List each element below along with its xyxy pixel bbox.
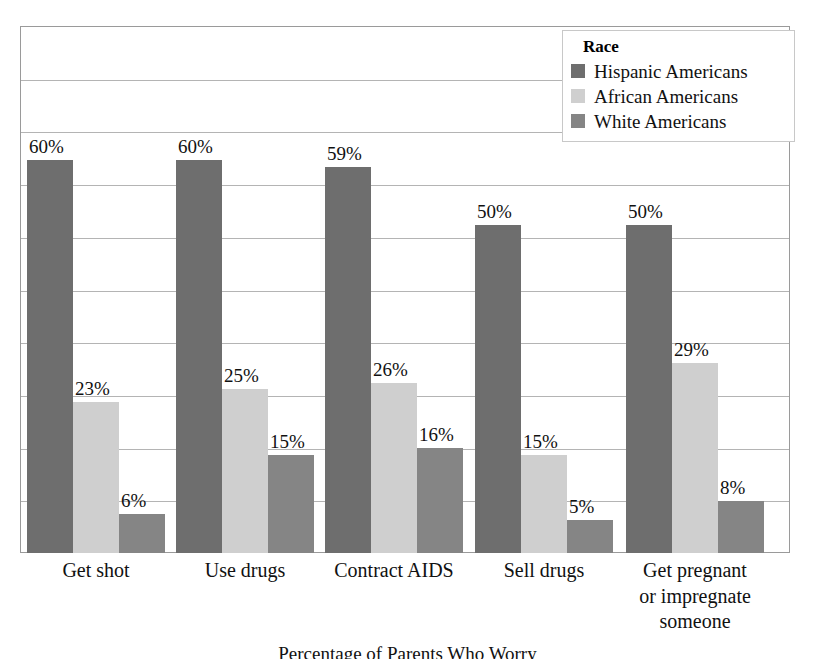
bar-value-label: 50%	[477, 202, 512, 221]
legend-item-label: Hispanic Americans	[594, 62, 748, 81]
legend-item-label: White Americans	[594, 112, 726, 131]
legend-swatch-icon	[571, 114, 585, 128]
chart-caption: Percentage of Parents Who Worry	[0, 643, 815, 659]
legend-items: Hispanic AmericansAfrican AmericansWhite…	[571, 59, 786, 134]
bar-value-label: 6%	[121, 491, 146, 510]
bar-value-label: 8%	[720, 478, 745, 497]
bar-value-label: 23%	[75, 379, 110, 398]
legend-swatch-icon	[571, 89, 585, 103]
category-label-line: someone	[605, 609, 785, 635]
bar[interactable]	[119, 514, 165, 553]
legend-item[interactable]: African Americans	[571, 84, 786, 109]
bar-value-label: 25%	[224, 366, 259, 385]
bar-group: 59%26%16%	[325, 26, 463, 553]
bar-chart: 60%23%6%60%25%15%59%26%16%50%15%5%50%29%…	[0, 0, 815, 659]
bar[interactable]	[268, 455, 314, 553]
bar[interactable]	[176, 160, 222, 553]
bar-value-label: 59%	[327, 144, 362, 163]
bar[interactable]	[718, 501, 764, 553]
bar-value-label: 60%	[178, 137, 213, 156]
bar[interactable]	[73, 402, 119, 553]
bar-value-label: 29%	[674, 340, 709, 359]
bar-value-label: 15%	[523, 432, 558, 451]
category-axis: Get shotUse drugsContract AIDSSell drugs…	[20, 558, 790, 638]
bar-group: 60%25%15%	[176, 26, 314, 553]
bar[interactable]	[521, 455, 567, 553]
category-label: Get pregnantor impregnatesomeone	[605, 558, 785, 635]
legend-item-label: African Americans	[594, 87, 738, 106]
legend-item[interactable]: White Americans	[571, 109, 786, 134]
bar[interactable]	[417, 448, 463, 553]
bar-value-label: 26%	[373, 360, 408, 379]
legend-title: Race	[583, 37, 786, 57]
bar-value-label: 16%	[419, 425, 454, 444]
category-label-line: Get pregnant	[605, 558, 785, 584]
bar[interactable]	[626, 225, 672, 553]
bar-value-label: 50%	[628, 202, 663, 221]
bar-value-label: 5%	[569, 497, 594, 516]
bar[interactable]	[325, 167, 371, 553]
bar[interactable]	[222, 389, 268, 553]
legend: Race Hispanic AmericansAfrican Americans…	[562, 30, 795, 142]
bar-value-label: 60%	[29, 137, 64, 156]
bar[interactable]	[567, 520, 613, 553]
bar[interactable]	[27, 160, 73, 553]
bar-group: 60%23%6%	[27, 26, 165, 553]
bar[interactable]	[672, 363, 718, 553]
legend-item[interactable]: Hispanic Americans	[571, 59, 786, 84]
bar[interactable]	[371, 383, 417, 553]
bar[interactable]	[475, 225, 521, 553]
legend-swatch-icon	[571, 64, 585, 78]
bar-value-label: 15%	[270, 432, 305, 451]
category-label-line: or impregnate	[605, 584, 785, 610]
